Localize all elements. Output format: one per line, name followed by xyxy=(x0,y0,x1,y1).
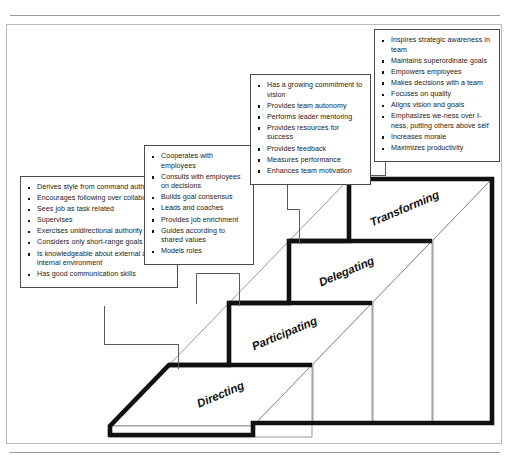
list-item: Maximizes productivity xyxy=(381,144,492,154)
list-item: Models roles xyxy=(151,247,246,257)
callout-participating-list: Cooperates with employees Consults with … xyxy=(151,152,246,257)
list-item: Aligns vision and goals xyxy=(381,101,492,111)
list-item: Leads and coaches xyxy=(151,204,246,214)
list-item: Has a growing commitment to vision xyxy=(257,81,363,100)
list-item: Provides resources for success xyxy=(257,124,363,143)
callout-transforming-list: Inspires strategic awareness in team Mai… xyxy=(381,36,492,154)
list-item: Emphasizes we-ness over I-ness, putting … xyxy=(381,112,492,131)
list-item: Focuses on quality xyxy=(381,90,492,100)
list-item: Maintains superordinate goals xyxy=(381,57,492,67)
connector-participating-seg2 xyxy=(196,273,240,274)
list-item: Inspires strategic awareness in team xyxy=(381,36,492,55)
list-item: Makes decisions with a team xyxy=(381,79,492,89)
list-item: Consults with employees on decisions xyxy=(151,173,246,192)
list-item: Enhances team motivation xyxy=(257,167,363,177)
list-item: Provides team autonomy xyxy=(257,102,363,112)
list-item: Performs leader mentoring xyxy=(257,113,363,123)
figure-container: Transforming Delegating Participating Di… xyxy=(0,0,510,460)
connector-directing-seg1 xyxy=(104,306,105,344)
list-item: Measures performance xyxy=(257,156,363,166)
list-item: Provides job enrichment xyxy=(151,216,246,226)
connector-directing-seg2 xyxy=(104,344,179,345)
callout-transforming[interactable]: Inspires strategic awareness in team Mai… xyxy=(374,29,500,162)
list-item: Guides according to shared values xyxy=(151,227,246,246)
list-item: Increases morale xyxy=(381,133,492,143)
list-item: Empowers employees xyxy=(381,68,492,78)
connector-delegating-seg3 xyxy=(299,209,300,244)
connector-directing-seg3 xyxy=(178,344,179,369)
callout-delegating[interactable]: Has a growing commitment to vision Provi… xyxy=(250,74,371,185)
list-item: Has good communication skills xyxy=(27,270,170,280)
connector-participating-seg1 xyxy=(196,273,197,304)
list-item: Cooperates with employees xyxy=(151,152,246,171)
list-item: Provides feedback xyxy=(257,145,363,155)
list-item: Builds goal consensus xyxy=(151,193,246,203)
connector-participating-seg3 xyxy=(239,273,240,306)
callout-delegating-list: Has a growing commitment to vision Provi… xyxy=(257,81,363,176)
callout-participating[interactable]: Cooperates with employees Consults with … xyxy=(144,145,254,265)
